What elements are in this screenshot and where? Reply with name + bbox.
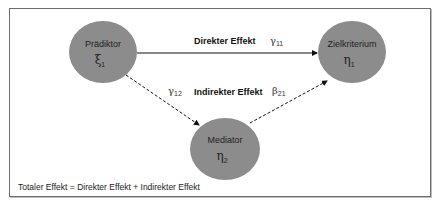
criterion-node: Zielkriterium η1: [318, 21, 386, 83]
total-effect-formula: Totaler Effekt = Direkter Effekt + Indir…: [18, 182, 200, 192]
direct-effect-label: Direkter Effekt: [194, 36, 256, 46]
criterion-circle: [318, 21, 386, 83]
gamma-11-coefficient: γ11: [270, 35, 283, 47]
predictor-label: Prädiktor: [85, 39, 121, 49]
beta-21-coefficient: β21: [272, 85, 286, 97]
criterion-label: Zielkriterium: [327, 39, 376, 49]
mediation-diagram: Prädiktor ξ1 Zielkriterium η1 Mediator η…: [0, 0, 440, 210]
predictor-node: Prädiktor ξ1: [69, 21, 137, 83]
mediator-label: Mediator: [207, 135, 242, 145]
predictor-to-mediator-arrow: [126, 75, 199, 125]
gamma-12-coefficient: γ12: [168, 85, 182, 97]
predictor-circle: [69, 21, 137, 83]
mediator-circle: [190, 118, 260, 180]
mediator-node: Mediator η2: [190, 118, 260, 180]
indirect-effect-label: Indirekter Effekt: [194, 87, 263, 97]
